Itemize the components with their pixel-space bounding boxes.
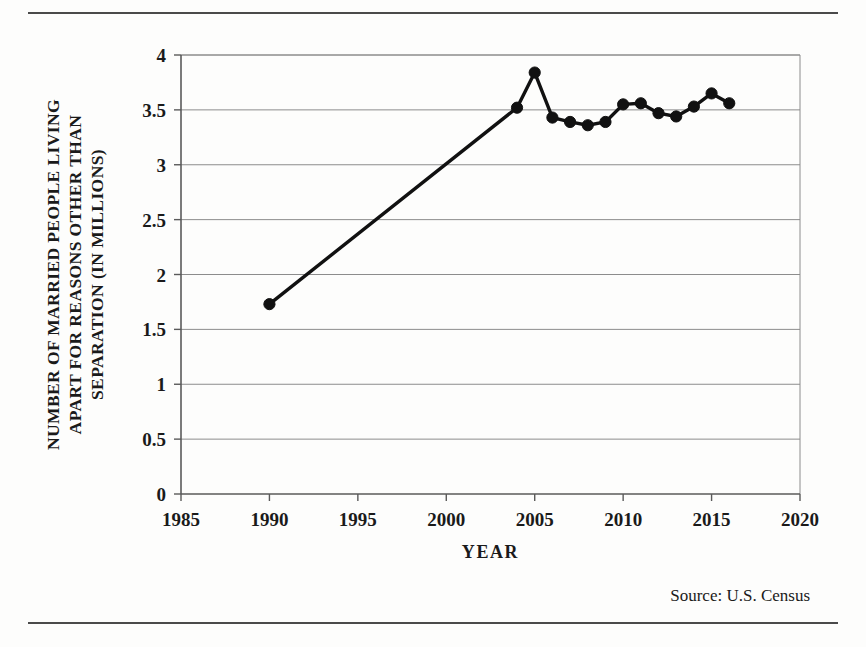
y-axis-title-group: NUMBER OF MARRIED PEOPLE LIVINGAPART FOR… [43, 99, 107, 450]
data-point [618, 99, 629, 110]
x-tick-label-1995: 1995 [339, 509, 377, 530]
y-axis-title-line: SEPARATION (IN MILLIONS) [87, 149, 107, 400]
x-tick-label-2005: 2005 [516, 509, 554, 530]
y-tick-label-0.5: 0.5 [142, 429, 166, 450]
y-axis-title: NUMBER OF MARRIED PEOPLE LIVINGAPART FOR… [43, 99, 107, 450]
data-point [635, 98, 646, 109]
data-point [529, 67, 540, 78]
y-tick-label-3.5: 3.5 [142, 100, 166, 121]
source-note: Source: U.S. Census [670, 586, 810, 605]
x-axis-ticks [181, 494, 800, 501]
x-tick-label-2020: 2020 [781, 509, 819, 530]
x-axis-tick-labels: 19851990199520002005201020152020 [162, 509, 819, 530]
chart-figure: 00.511.522.533.54 1985199019952000200520… [0, 18, 866, 618]
y-tick-label-2: 2 [157, 265, 167, 286]
data-point [706, 88, 717, 99]
data-point [688, 101, 699, 112]
data-point [653, 108, 664, 119]
line-chart: 00.511.522.533.54 1985199019952000200520… [0, 18, 866, 618]
y-tick-label-1: 1 [157, 374, 167, 395]
x-tick-label-1985: 1985 [162, 509, 200, 530]
bottom-divider-rule [28, 622, 838, 624]
y-axis-tick-labels: 00.511.522.533.54 [142, 45, 166, 505]
data-point [582, 120, 593, 131]
data-point [600, 116, 611, 127]
y-tick-label-3: 3 [157, 155, 167, 176]
x-tick-label-2015: 2015 [693, 509, 731, 530]
y-tick-label-1.5: 1.5 [142, 319, 166, 340]
data-point [547, 112, 558, 123]
data-point [671, 111, 682, 122]
series-line-0 [269, 73, 729, 305]
y-tick-label-0: 0 [157, 484, 167, 505]
y-axis-ticks [174, 55, 181, 494]
y-tick-label-2.5: 2.5 [142, 210, 166, 231]
data-point [511, 102, 522, 113]
figure-page: 00.511.522.533.54 1985199019952000200520… [0, 0, 866, 647]
data-point [724, 98, 735, 109]
data-point [564, 116, 575, 127]
x-tick-label-1990: 1990 [250, 509, 288, 530]
top-divider-rule [28, 12, 838, 14]
x-tick-label-2000: 2000 [427, 509, 465, 530]
y-tick-label-4: 4 [157, 45, 167, 66]
data-point [264, 299, 275, 310]
x-axis-title: YEAR [462, 542, 519, 562]
y-axis-title-line: APART FOR REASONS OTHER THAN [65, 115, 85, 435]
data-series [264, 67, 735, 310]
y-axis-title-line: NUMBER OF MARRIED PEOPLE LIVING [43, 99, 63, 450]
x-tick-label-2010: 2010 [604, 509, 642, 530]
gridlines [181, 55, 800, 439]
